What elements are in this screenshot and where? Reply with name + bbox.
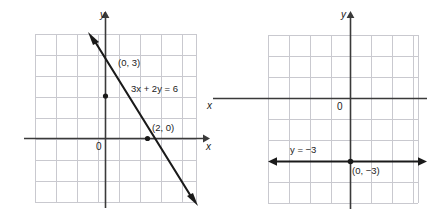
left-origin-label: 0 [96,142,102,152]
right-graph-panel: y x 0 y = −3 (0, −3) [213,0,427,215]
two-graph-figure: y x 0 (0, 3) (2, 0) 3x + 2y = 6 [0,0,427,215]
right-x-axis-label: x [207,101,212,111]
right-graph-canvas [213,0,427,215]
line-arrowhead-upper [88,32,99,45]
grid-lines [35,34,197,203]
point-marker-2-0 [145,136,150,141]
left-point-label-x-intercept: (2, 0) [152,123,174,133]
point-marker-0-neg3 [348,159,354,165]
left-x-axis-label: x [206,142,211,152]
right-origin-label: 0 [337,102,343,112]
left-point-label-y-intercept: (0, 3) [118,58,140,68]
line-arrowhead-left [268,157,277,166]
left-equation-label: 3x + 2y = 6 [131,84,178,94]
y-axis-arrowhead [347,11,355,18]
right-line-equation-label: y = −3 [290,145,316,155]
right-point-label: (0, −3) [352,166,380,176]
line-arrowhead-right [418,157,427,166]
left-graph-panel: y x 0 (0, 3) (2, 0) 3x + 2y = 6 [0,0,214,215]
right-y-axis-label: y [341,10,346,20]
left-y-axis-label: y [100,10,105,20]
point-marker-0-3 [103,93,108,98]
grid-lines [268,35,419,204]
left-graph-canvas [0,0,214,215]
